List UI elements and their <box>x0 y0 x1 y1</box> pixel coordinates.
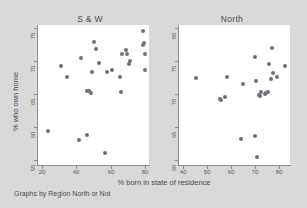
x-axis-title: % born in state of residence <box>64 178 264 187</box>
scatter-plot-figure: % who own home S & W 75 70 65 60 55 20 4… <box>0 0 307 208</box>
scatter-point <box>255 155 259 159</box>
x-tick-label-left-80: 80 <box>136 169 154 175</box>
y-axis-spine-left <box>37 25 38 165</box>
scatter-point <box>142 41 146 45</box>
x-tick-label-right-60: 60 <box>222 169 240 175</box>
y-tick-label-right-80: 80 <box>171 28 177 44</box>
scatter-point <box>267 62 271 66</box>
scatter-point <box>239 137 243 141</box>
scatter-point <box>105 70 109 74</box>
scatter-point <box>225 75 229 79</box>
scatter-point <box>141 29 145 33</box>
scatter-point <box>118 75 122 79</box>
plot-area-left <box>38 25 149 165</box>
panel-title-right: North <box>172 14 292 24</box>
scatter-point <box>253 55 257 59</box>
x-tick-label-left-60: 60 <box>102 169 120 175</box>
x-tick-label-right-50: 50 <box>198 169 216 175</box>
scatter-point <box>110 68 114 72</box>
scatter-point <box>219 98 223 102</box>
x-tick-label-right-80: 80 <box>270 169 288 175</box>
plot-area-right <box>179 25 290 165</box>
scatter-point <box>89 91 93 95</box>
y-tick-label-right-65: 65 <box>171 127 177 143</box>
y-axis-spine-right <box>178 25 179 165</box>
scatter-point <box>194 76 198 80</box>
scatter-point <box>270 46 274 50</box>
scatter-point <box>266 90 270 94</box>
scatter-point <box>65 75 69 79</box>
scatter-point <box>103 151 107 155</box>
panel-title-left: S & W <box>30 14 150 24</box>
y-tick-label-left-60: 60 <box>30 127 36 143</box>
scatter-point <box>90 70 94 74</box>
x-tick-label-left-20: 20 <box>33 169 51 175</box>
y-tick-label-right-75: 75 <box>171 61 177 77</box>
scatter-point <box>85 133 89 137</box>
scatter-point <box>258 94 262 98</box>
y-tick-label-left-75: 75 <box>30 28 36 44</box>
y-axis-title: % who own home <box>11 52 20 152</box>
scatter-point <box>79 56 83 60</box>
scatter-point <box>128 59 132 63</box>
scatter-point <box>223 95 227 99</box>
x-axis-spine-left <box>37 165 150 166</box>
scatter-point <box>77 138 81 142</box>
y-tick-label-right-70: 70 <box>171 94 177 110</box>
x-axis-spine-right <box>178 165 291 166</box>
scatter-point <box>254 79 258 83</box>
figure-note: Graphs by Region North or Not <box>14 190 111 197</box>
y-tick-label-left-70: 70 <box>30 61 36 77</box>
x-tick-label-left-40: 40 <box>67 169 85 175</box>
scatter-point <box>275 75 279 79</box>
scatter-point <box>94 47 98 51</box>
scatter-point <box>120 52 124 56</box>
scatter-point <box>269 77 273 81</box>
x-tick-label-right-40: 40 <box>174 169 192 175</box>
scatter-point <box>143 52 147 56</box>
scatter-point <box>46 129 50 133</box>
scatter-point <box>241 82 245 86</box>
scatter-point <box>253 134 257 138</box>
figure-canvas: % who own home S & W 75 70 65 60 55 20 4… <box>4 4 303 204</box>
scatter-point <box>143 68 147 72</box>
x-tick-label-right-70: 70 <box>246 169 264 175</box>
scatter-point <box>125 52 129 56</box>
scatter-point <box>59 64 63 68</box>
y-tick-label-left-65: 65 <box>30 94 36 110</box>
scatter-point <box>119 90 123 94</box>
scatter-point <box>283 64 287 68</box>
scatter-point <box>92 40 96 44</box>
scatter-point <box>97 61 101 65</box>
